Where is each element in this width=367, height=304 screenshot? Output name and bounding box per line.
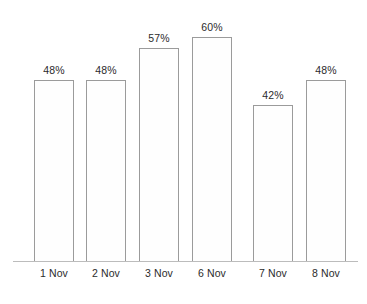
- bar-rect[interactable]: [86, 80, 126, 262]
- bar-group: 48%: [306, 1, 346, 262]
- bar-group: 48%: [86, 1, 126, 262]
- bar-value-label: 60%: [201, 22, 222, 33]
- bar-rect[interactable]: [34, 80, 74, 262]
- bar-rect[interactable]: [139, 48, 179, 262]
- x-axis-tick-label: 7 Nov: [253, 268, 293, 279]
- bar-value-label: 57%: [148, 33, 169, 44]
- x-axis-tick-label: 8 Nov: [306, 268, 346, 279]
- x-axis-tick-label: 3 Nov: [139, 268, 179, 279]
- bar-value-label: 42%: [262, 90, 283, 101]
- bar-value-label: 48%: [43, 65, 64, 76]
- bar-group: 48%: [34, 1, 74, 262]
- bar-rect[interactable]: [192, 37, 232, 262]
- x-axis-line: [13, 261, 358, 262]
- bar-group: 57%: [139, 1, 179, 262]
- bar-group: 42%: [253, 1, 293, 262]
- x-axis-tick-label: 1 Nov: [34, 268, 74, 279]
- bar-value-label: 48%: [315, 65, 336, 76]
- bar-rect[interactable]: [253, 105, 293, 262]
- bar-group: 60%: [192, 1, 232, 262]
- x-axis-labels: 1 Nov 2 Nov 3 Nov 6 Nov 7 Nov 8 Nov: [0, 268, 367, 288]
- plot-area: 48% 48% 57% 60% 42% 48%: [0, 0, 367, 262]
- bar-chart: 48% 48% 57% 60% 42% 48% 1 Nov 2 Nov 3 No…: [0, 0, 367, 304]
- x-axis-tick-label: 2 Nov: [86, 268, 126, 279]
- x-axis-tick-label: 6 Nov: [192, 268, 232, 279]
- bar-value-label: 48%: [95, 65, 116, 76]
- bar-rect[interactable]: [306, 80, 346, 262]
